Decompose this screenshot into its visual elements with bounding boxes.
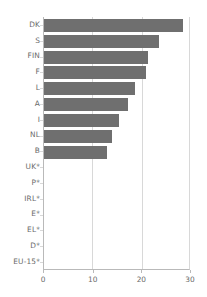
y-axis-tick-label: B: [0, 147, 40, 155]
bar: [44, 35, 159, 48]
x-axis-labels: 0102030: [0, 275, 207, 289]
y-axis-tick-mark: [40, 104, 43, 105]
y-axis-tick-mark: [40, 246, 43, 247]
y-axis-tick-mark: [40, 230, 43, 231]
bar: [44, 82, 135, 95]
y-axis-tick-label: EU-15*: [0, 258, 40, 266]
y-axis-tick-mark: [40, 25, 43, 26]
y-axis-tick-label: I: [0, 116, 40, 124]
y-axis-tick-mark: [40, 215, 43, 216]
y-axis-tick-label: EL*: [0, 226, 40, 234]
bar: [44, 51, 148, 64]
x-axis-tick-label: 30: [185, 275, 194, 284]
y-axis-tick-label: L: [0, 84, 40, 92]
y-axis-labels: DKSFINFLAINLBUK*P*IRL*E*EL*D*EU-15*: [0, 17, 40, 270]
y-axis-tick-label: DK: [0, 21, 40, 29]
y-axis-tick-label: A: [0, 100, 40, 108]
y-axis-tick-mark: [40, 262, 43, 263]
y-axis-tick-label: F: [0, 68, 40, 76]
y-axis-tick-mark: [40, 57, 43, 58]
bar: [44, 130, 112, 143]
y-axis-tick-mark: [40, 41, 43, 42]
y-axis-tick-label: UK*: [0, 163, 40, 171]
x-axis-tick-mark: [93, 270, 94, 273]
y-axis-tick-mark: [40, 120, 43, 121]
bar: [44, 66, 146, 79]
y-axis-tick-mark: [40, 72, 43, 73]
x-axis-tick-label: 20: [137, 275, 146, 284]
y-axis-tick-label: P*: [0, 179, 40, 187]
y-axis-tick-mark: [40, 167, 43, 168]
bar: [44, 146, 107, 159]
x-axis-tick-mark: [190, 270, 191, 273]
y-axis-tick-label: D*: [0, 242, 40, 250]
x-axis-tick-label: 10: [88, 275, 97, 284]
y-axis-tick-mark: [40, 199, 43, 200]
y-axis-tick-label: NL: [0, 131, 40, 139]
y-axis-tick-mark: [40, 136, 43, 137]
bars-layer: [44, 17, 190, 270]
x-axis-tick-mark: [43, 270, 44, 273]
y-axis-tick-label: S: [0, 37, 40, 45]
bar: [44, 98, 128, 111]
y-axis-tick-label: FIN: [0, 52, 40, 60]
x-axis-tick-label: 0: [41, 275, 46, 284]
bar-chart: DKSFINFLAINLBUK*P*IRL*E*EL*D*EU-15* 0102…: [0, 0, 207, 297]
bar: [44, 114, 119, 127]
y-axis-tick-label: IRL*: [0, 195, 40, 203]
y-axis-tick-label: E*: [0, 210, 40, 218]
x-axis-tick-mark: [141, 270, 142, 273]
y-axis-tick-mark: [40, 88, 43, 89]
y-axis-tick-mark: [40, 151, 43, 152]
y-axis-tick-mark: [40, 183, 43, 184]
bar: [44, 19, 183, 32]
